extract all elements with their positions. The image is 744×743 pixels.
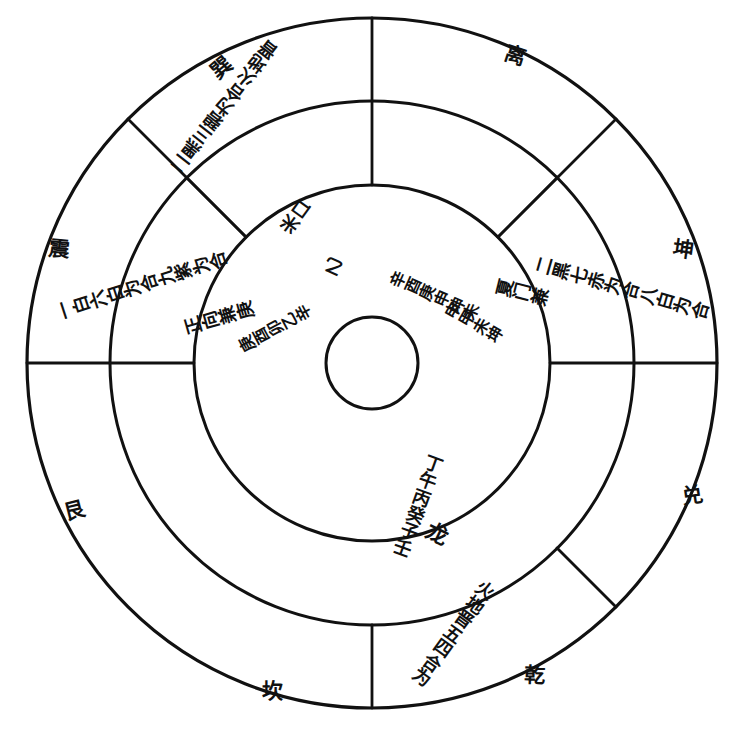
inner-circle [194, 185, 550, 541]
hub-circle [326, 317, 418, 409]
trigram-label-kan[interactable]: 坎 [255, 681, 289, 702]
trigram-label-qian[interactable]: 乾 [518, 664, 553, 687]
compass-diagram-canvas: 巽 离 坤 兑 乾 坎 艮 震 二黑三碧为合火地晋 一白六白为合九紫为合 二黑七… [0, 0, 744, 743]
divider-mid-nw [186, 177, 246, 237]
compass-svg [0, 0, 744, 743]
divider-se [557, 548, 616, 607]
trigram-label-kun[interactable]: 坤 [665, 238, 702, 264]
divider-mid-ne [498, 177, 558, 237]
trigram-label-zhen[interactable]: 震 [41, 237, 77, 262]
